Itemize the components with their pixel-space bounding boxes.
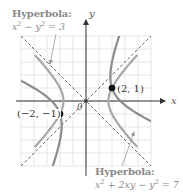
hyperbola-2-equation: x2 + 2xy − y2 = 7 [95,179,179,190]
point-label-neg2-neg1: (−2, −1) [17,109,61,119]
hyperbola-1-title: Hyperbola: [12,9,72,19]
hyperbola-2-label: Hyperbola: x2 + 2xy − y2 = 7 [94,167,180,190]
x-axis-label: x [171,96,177,106]
hyperbola-figure: y x 0 (2, 1) (−2, −1) Hyperbola: x2 − y2… [0,0,183,194]
point-label-2-1: (2, 1) [117,84,144,94]
origin-label: 0 [77,103,83,112]
point-2-1 [109,85,116,92]
y-axis-label: y [89,9,95,19]
hyperbola-1-equation: x2 − y2 = 3 [12,21,72,32]
hyperbola-2-title: Hyperbola: [95,167,179,177]
hyperbola-1-label: Hyperbola: x2 − y2 = 3 [11,9,73,32]
origin-dot [84,99,87,102]
